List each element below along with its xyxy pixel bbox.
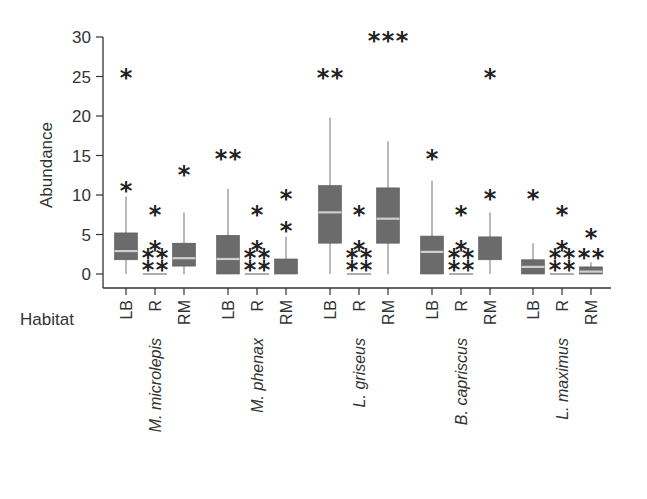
outlier-asterisk: * [331, 64, 344, 92]
outlier-asterisk: * [396, 27, 409, 55]
iqr-box [421, 236, 444, 274]
species-group: ********* [421, 64, 502, 284]
outlier-asterisk: * [346, 256, 359, 284]
box-LB: * [421, 145, 444, 274]
habitat-label: LB [220, 300, 237, 320]
iqr-box [217, 235, 240, 274]
outlier-asterisk: * [448, 256, 461, 284]
habitat-label: LB [525, 300, 542, 320]
outlier-asterisk: * [462, 256, 475, 284]
outlier-asterisk: * [215, 145, 228, 173]
outlier-asterisk: * [368, 27, 381, 55]
habitat-label: LB [322, 300, 339, 320]
box-R: ****** [142, 201, 169, 284]
habitat-label: R [453, 300, 470, 312]
outlier-asterisk: * [229, 145, 242, 173]
iqr-box [377, 188, 400, 243]
outlier-asterisk: * [156, 256, 169, 284]
outlier-asterisk: * [426, 145, 439, 173]
outlier-asterisk: * [251, 201, 264, 229]
outlier-asterisk: * [178, 161, 191, 189]
y-tick-label: 15 [72, 147, 91, 166]
iqr-box [275, 259, 298, 274]
outlier-asterisk: * [382, 27, 395, 55]
outlier-asterisk: * [353, 201, 366, 229]
box-RM: ** [479, 64, 502, 274]
outlier-asterisk: * [120, 64, 133, 92]
box-LB: ** [317, 64, 344, 274]
box-RM: *** [368, 27, 409, 274]
species-group: ********* [115, 64, 196, 284]
box-LB: ** [215, 145, 242, 274]
habitat-label: R [147, 300, 164, 312]
habitat-label: R [249, 300, 266, 312]
y-tick-label: 0 [82, 265, 91, 284]
outlier-asterisk: * [317, 64, 330, 92]
outlier-asterisk: * [244, 256, 257, 284]
y-tick-label: 20 [72, 107, 91, 126]
y-tick-label: 10 [72, 186, 91, 205]
habitat-label: LB [118, 300, 135, 320]
species-label: B. capriscus [453, 338, 470, 425]
species-label: M. microlepis [147, 338, 164, 432]
iqr-box [479, 237, 502, 260]
outlier-asterisk: * [484, 185, 497, 213]
outlier-asterisk: * [258, 256, 271, 284]
box-R: ****** [448, 201, 475, 284]
outlier-asterisk: * [280, 185, 293, 213]
iqr-box [319, 186, 342, 244]
habitat-label: R [351, 300, 368, 312]
iqr-box [115, 233, 138, 260]
box-RM: *** [578, 224, 605, 274]
outlier-asterisk: * [120, 177, 133, 205]
outlier-asterisk: * [142, 256, 155, 284]
outlier-asterisk: * [563, 256, 576, 284]
outlier-asterisk: * [149, 201, 162, 229]
box-LB: ** [115, 64, 138, 274]
y-tick-label: 25 [72, 68, 91, 87]
box-RM: * [173, 161, 196, 274]
outlier-asterisk: * [360, 256, 373, 284]
habitat-label: R [554, 300, 571, 312]
species-group: ********** [522, 185, 605, 284]
box-R: ****** [244, 201, 271, 284]
outlier-asterisk: * [455, 201, 468, 229]
species-label: M. phenax [249, 337, 266, 413]
outlier-asterisk: * [549, 256, 562, 284]
outlier-asterisk: * [527, 185, 540, 213]
habitat-label: RM [380, 300, 397, 325]
boxplot-chart: 051015202530 ***************************… [0, 0, 647, 499]
box-LB: * [522, 185, 545, 274]
habitat-label: RM [176, 300, 193, 325]
species-label: L. griseus [351, 338, 368, 407]
outlier-asterisk: * [484, 64, 497, 92]
box-RM: ** [275, 185, 298, 274]
box-R: ****** [549, 201, 576, 284]
habitat-label: RM [482, 300, 499, 325]
box-R: ****** [346, 201, 373, 284]
species-label: L. maximus [554, 338, 571, 420]
outlier-asterisk: * [556, 201, 569, 229]
outlier-asterisk: * [585, 224, 598, 252]
habitat-label: RM [278, 300, 295, 325]
outlier-asterisk: * [280, 217, 293, 245]
y-axis-title: Abundance [37, 122, 56, 208]
iqr-box [173, 243, 196, 266]
habitat-label: RM [583, 300, 600, 325]
habitat-label: LB [424, 300, 441, 320]
y-tick-label: 5 [82, 226, 91, 245]
species-group: *********** [317, 27, 409, 284]
plot-area: ****************************************… [115, 27, 605, 284]
habitat-row-label: Habitat [20, 310, 74, 329]
x-axis-labels: LBRRMM. microlepisLBRRMM. phenaxLBRRML. … [118, 288, 600, 432]
y-tick-label: 30 [72, 28, 91, 47]
species-group: ********** [215, 145, 298, 284]
